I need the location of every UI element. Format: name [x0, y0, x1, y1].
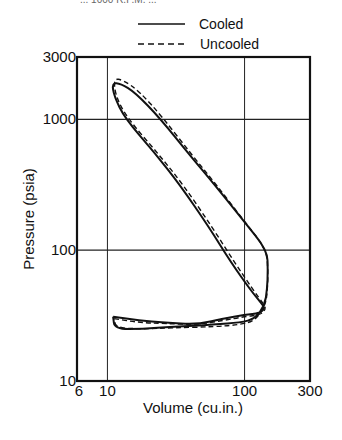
x-tick-label: 6	[75, 382, 83, 399]
y-tick-labels: 1010010003000	[43, 48, 76, 389]
legend-label-uncooled: Uncooled	[200, 36, 259, 52]
x-tick-label: 100	[232, 382, 257, 399]
y-tick-label: 10	[59, 372, 76, 389]
x-tick-label: 300	[297, 382, 322, 399]
plot-frame	[77, 57, 310, 381]
x-axis-label: Volume (cu.in.)	[143, 399, 243, 416]
legend-label-cooled: Cooled	[199, 16, 243, 32]
pv-diagram-chart: 1010010003000 610100300 Volume (cu.in.) …	[0, 0, 342, 440]
x-tick-labels: 610100300	[75, 382, 323, 399]
legend: Cooled Uncooled	[138, 16, 259, 52]
y-tick-label: 3000	[43, 48, 76, 65]
y-tick-label: 100	[51, 241, 76, 258]
y-tick-label: 1000	[43, 110, 76, 127]
gridlines	[77, 57, 310, 381]
y-axis-label: Pressure (psia)	[20, 168, 37, 270]
x-tick-label: 10	[99, 382, 116, 399]
